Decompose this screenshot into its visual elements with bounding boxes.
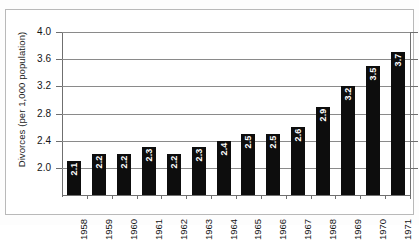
bar[interactable]: 2.4 (217, 141, 231, 195)
bar-value-label: 2.9 (318, 108, 328, 121)
x-tick-label: 1964 (228, 200, 239, 225)
x-tick-mark (87, 195, 88, 199)
x-tick-mark (261, 195, 262, 199)
bar-value-label: 2.2 (169, 156, 179, 169)
y-tick-label: 4.0 (21, 26, 51, 37)
x-tick-label: 1960 (128, 200, 139, 225)
bar[interactable]: 2.3 (192, 147, 206, 195)
gridline (62, 59, 410, 60)
y-tick-label: 2.4 (21, 135, 51, 146)
bar[interactable]: 2.2 (92, 154, 106, 195)
x-tick-label: 1961 (153, 200, 164, 225)
chart-figure: Divorces (per 1,000 population) 2.02.42.… (0, 0, 419, 225)
x-tick-mark (311, 195, 312, 199)
x-tick-label: 1965 (252, 200, 263, 225)
y-tick-label: 2.0 (21, 162, 51, 173)
bar-value-label: 2.3 (144, 149, 154, 162)
bar-value-label: 3.7 (393, 54, 403, 67)
bar[interactable]: 2.5 (266, 134, 280, 195)
x-tick-mark (211, 195, 212, 199)
y-tick-label: 3.2 (21, 80, 51, 91)
bar-value-label: 2.3 (194, 149, 204, 162)
x-tick-label: 1958 (78, 200, 89, 225)
x-tick-mark (112, 195, 113, 199)
x-tick-label: 1967 (302, 200, 313, 225)
x-tick-mark (410, 195, 411, 199)
gridline (62, 86, 410, 87)
bar-value-label: 2.2 (119, 156, 129, 169)
x-tick-label: 1969 (352, 200, 363, 225)
bar-value-label: 2.4 (219, 142, 229, 155)
bar-value-label: 2.6 (293, 129, 303, 142)
y-tick-label: 3.6 (21, 53, 51, 64)
x-tick-mark (186, 195, 187, 199)
bar[interactable]: 2.3 (142, 147, 156, 195)
x-tick-mark (385, 195, 386, 199)
x-tick-mark (236, 195, 237, 199)
y-tick-label: 2.8 (21, 108, 51, 119)
bar[interactable]: 2.5 (241, 134, 255, 195)
bar[interactable]: 2.1 (67, 161, 81, 195)
right-tick-mark (411, 141, 418, 142)
bar-value-label: 2.5 (243, 135, 253, 148)
right-tick-mark (411, 114, 418, 115)
right-axis-line (410, 32, 411, 197)
bar-value-label: 2.5 (268, 135, 278, 148)
bar-value-label: 2.1 (69, 162, 79, 175)
x-tick-mark (161, 195, 162, 199)
bar[interactable]: 2.2 (117, 154, 131, 195)
bar[interactable]: 2.2 (167, 154, 181, 195)
x-tick-mark (286, 195, 287, 199)
chart-frame: Divorces (per 1,000 population) 2.02.42.… (5, 9, 414, 215)
x-tick-label: 1962 (178, 200, 189, 225)
bar-value-label: 3.2 (343, 88, 353, 101)
x-tick-mark (335, 195, 336, 199)
x-tick-label: 1963 (203, 200, 214, 225)
x-tick-label: 1966 (277, 200, 288, 225)
bar-value-label: 3.5 (368, 67, 378, 80)
bar[interactable]: 3.5 (366, 66, 380, 195)
bar[interactable]: 3.7 (391, 52, 405, 195)
right-tick-mark (411, 168, 418, 169)
x-tick-mark (137, 195, 138, 199)
x-tick-label: 1959 (103, 200, 114, 225)
x-tick-label: 1968 (327, 200, 338, 225)
bar[interactable]: 2.9 (316, 107, 330, 195)
y-axis-label: Divorces (per 1,000 population) (16, 15, 27, 185)
gridline (62, 168, 410, 169)
bar[interactable]: 2.6 (291, 127, 305, 195)
x-tick-label: 1970 (377, 200, 388, 225)
plot-area: 2.12.22.22.32.22.32.42.52.52.62.93.23.53… (62, 32, 410, 195)
gridline (62, 32, 410, 33)
right-tick-mark (411, 32, 418, 33)
gridline (62, 114, 410, 115)
bar[interactable]: 3.2 (341, 86, 355, 195)
x-tick-label: 1971 (402, 200, 413, 225)
bar-value-label: 2.2 (94, 156, 104, 169)
gridline (62, 141, 410, 142)
right-tick-mark (411, 86, 418, 87)
x-tick-mark (360, 195, 361, 199)
right-tick-mark (411, 59, 418, 60)
